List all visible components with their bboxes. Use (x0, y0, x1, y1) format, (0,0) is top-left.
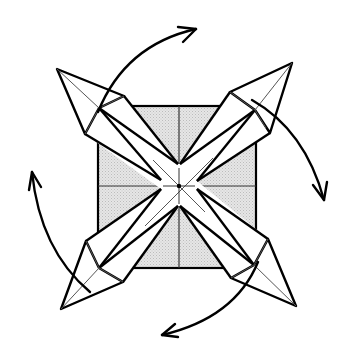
center-point (177, 184, 181, 188)
diagram-canvas (0, 0, 348, 354)
origami-diagram: Origami folding step: swing four points (0, 0, 348, 354)
